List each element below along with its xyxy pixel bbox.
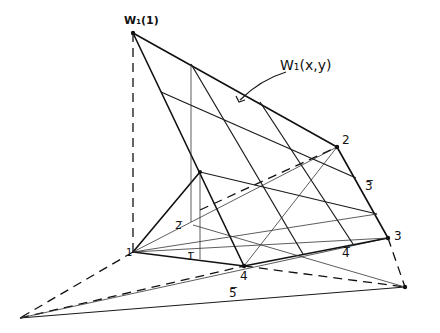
vertex-dots — [131, 31, 407, 289]
surface-outline — [133, 33, 388, 266]
vertex-label-1: 1 — [126, 247, 132, 258]
base-lines — [20, 147, 405, 318]
apex-label: W₁(1) — [124, 14, 159, 27]
surface-diagram: W₁(1) W₁(x,y) 1 2 3 4 1̅ 2̅ 3̅ 4̅ 5̅ — [0, 0, 440, 333]
annotation-arrow — [236, 72, 286, 102]
edge-label-4: 4̅ — [342, 246, 351, 260]
edge-label-1: 1̅ — [187, 250, 195, 263]
edge-label-5: 5̅ — [229, 286, 238, 300]
vertex-label-4: 4 — [240, 269, 248, 283]
function-label: W₁(x,y) — [280, 57, 331, 73]
edge-label-2: 2̅ — [175, 219, 183, 232]
surface-grid — [133, 64, 377, 266]
vertex-label-3: 3 — [394, 229, 402, 243]
vertex-label-2: 2 — [342, 133, 350, 147]
edge-label-3: 3̅ — [365, 179, 374, 193]
